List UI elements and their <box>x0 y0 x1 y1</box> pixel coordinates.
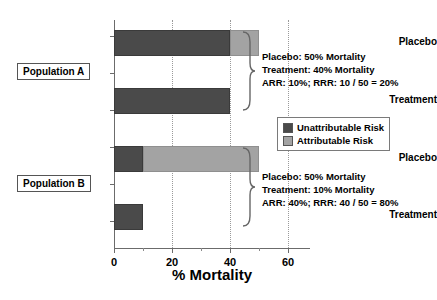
bar-placebo-population-a <box>114 30 259 56</box>
x-axis-title: % Mortality <box>114 266 310 283</box>
annotation-b-line-2: Treatment: 10% Mortality <box>262 183 398 196</box>
brace-population-a <box>242 30 256 112</box>
xtick-60 <box>288 248 289 253</box>
mortality-stacked-bar-figure: Placebo Population A Treatment Placebo P… <box>0 0 437 300</box>
legend-swatch-attributable-icon <box>283 136 293 146</box>
annotation-b-line-3: ARR: 40%; RRR: 40 / 50 = 80% <box>262 196 398 209</box>
ytick-5 <box>110 184 114 185</box>
legend-label-attributable-risk: Attributable Risk <box>297 134 373 147</box>
annotation-a-line-2: Treatment: 40% Mortality <box>262 63 398 76</box>
bar-segment-unattributable <box>114 146 143 172</box>
legend-item-unattributable-risk: Unattributable Risk <box>283 121 384 134</box>
category-label-placebo-b: Placebo <box>333 152 437 163</box>
annotation-population-b: Placebo: 50% Mortality Treatment: 10% Mo… <box>262 170 398 209</box>
xtick-10 <box>143 248 144 251</box>
ytick-2 <box>110 73 114 74</box>
annotation-a-line-3: ARR: 10%; RRR: 10 / 50 = 20% <box>262 76 398 89</box>
category-label-treatment-a: Treatment <box>333 94 437 105</box>
xtick-20 <box>172 248 173 253</box>
xtick-0 <box>114 248 115 253</box>
bar-treatment-population-a <box>114 88 230 114</box>
legend-item-attributable-risk: Attributable Risk <box>283 134 384 147</box>
legend-label-unattributable-risk: Unattributable Risk <box>297 121 384 134</box>
group-label-population-a: Population A <box>17 63 90 80</box>
xtick-40 <box>230 248 231 253</box>
bar-placebo-population-b <box>114 146 259 172</box>
legend-swatch-unattributable-icon <box>283 123 293 133</box>
bar-segment-unattributable <box>114 88 230 114</box>
bar-segment-unattributable <box>114 30 230 56</box>
annotation-b-line-1: Placebo: 50% Mortality <box>262 170 398 183</box>
annotation-a-line-1: Placebo: 50% Mortality <box>262 50 398 63</box>
xtick-30 <box>201 248 202 251</box>
category-label-placebo-a: Placebo <box>333 36 437 47</box>
category-label-treatment-b: Treatment <box>333 209 437 220</box>
legend: Unattributable Risk Attributable Risk <box>277 117 390 151</box>
bar-segment-unattributable <box>114 204 143 230</box>
annotation-population-a: Placebo: 50% Mortality Treatment: 40% Mo… <box>262 50 398 89</box>
xtick-50 <box>259 248 260 251</box>
group-label-population-b: Population B <box>17 175 91 192</box>
brace-population-b <box>242 146 256 228</box>
bar-treatment-population-b <box>114 204 143 230</box>
